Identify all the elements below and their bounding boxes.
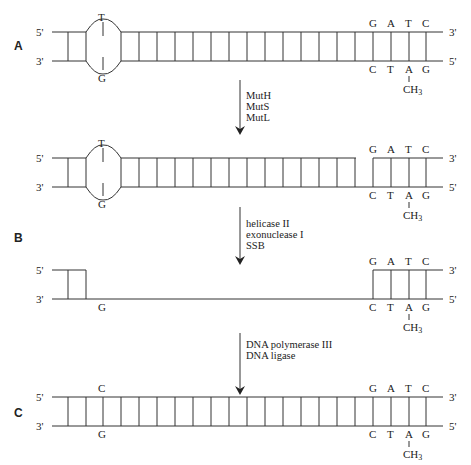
gatc-bottom-g: G (422, 63, 430, 75)
gatc-bottom-a: A (405, 63, 413, 75)
mismatch-top-base: T (98, 11, 105, 23)
enzyme-ssb: SSB (246, 240, 265, 251)
five-prime-left: 5' (36, 26, 44, 38)
gatc-bottom-a: A (405, 428, 413, 440)
repaired-bottom-base: G (98, 428, 106, 440)
enzyme-mutl: MutL (246, 112, 270, 123)
three-prime-left: 3' (36, 181, 44, 193)
enzyme-muth: MutH (246, 90, 272, 101)
gatc-top-c: C (422, 382, 429, 394)
dna-mismatch-repair-diagram: A 5' 3' (0, 0, 471, 465)
three-prime-right: 3' (449, 264, 457, 276)
gatc-bottom-c: C (369, 301, 376, 313)
gatc-top-a: A (387, 143, 395, 155)
three-prime-right: 3' (449, 152, 457, 164)
three-prime-left: 3' (36, 420, 44, 432)
mismatch-top-base: T (98, 137, 105, 149)
methyl-group: CH3 (403, 209, 422, 223)
panel-label-a: A (14, 39, 23, 53)
row-2-nicked-duplex: 5' 3' T G G A T C C (36, 137, 457, 223)
enzyme-exonuclease-i: exonuclease I (246, 229, 304, 240)
gatc-top-g: G (369, 382, 377, 394)
gatc-bottom-a: A (405, 189, 413, 201)
gatc-top-c: C (422, 143, 429, 155)
gatc-bottom-c: C (369, 428, 376, 440)
row-1-mismatch-duplex: A 5' 3' (14, 11, 457, 97)
mismatch-bottom-base: G (98, 72, 106, 84)
gatc-top-t: T (405, 255, 412, 267)
five-prime-right: 5' (449, 55, 457, 67)
panel-label-b: B (14, 231, 23, 245)
panel-label-c: C (14, 406, 23, 420)
three-prime-right: 3' (449, 26, 457, 38)
step-1-arrow: MutH MutS MutL (235, 80, 272, 135)
enzyme-muts: MutS (246, 101, 270, 112)
gatc-bottom-g: G (422, 428, 430, 440)
gatc-top-a: A (387, 17, 395, 29)
five-prime-left: 5' (36, 391, 44, 403)
gatc-top-t: T (405, 17, 412, 29)
gatc-top-g: G (369, 17, 377, 29)
gatc-top-t: T (405, 143, 412, 155)
gatc-bottom-a: A (405, 301, 413, 313)
row-4-repaired-duplex: C 5' 3' C G G A T C C T A G (14, 382, 457, 462)
gatc-top-a: A (387, 382, 395, 394)
enzyme-dna-polymerase-iii: DNA polymerase III (246, 339, 333, 350)
three-prime-left: 3' (36, 55, 44, 67)
methyl-group: CH3 (403, 83, 422, 97)
five-prime-right: 5' (449, 181, 457, 193)
gatc-bottom-c: C (369, 63, 376, 75)
gatc-bottom-g: G (422, 189, 430, 201)
gatc-bottom-t: T (387, 63, 394, 75)
five-prime-right: 5' (449, 420, 457, 432)
enzyme-dna-ligase: DNA ligase (246, 350, 296, 361)
gatc-top-t: T (405, 382, 412, 394)
methyl-group: CH3 (403, 321, 422, 335)
five-prime-left: 5' (36, 264, 44, 276)
five-prime-right: 5' (449, 293, 457, 305)
mismatch-bottom-base: G (98, 198, 106, 210)
gatc-bottom-g: G (422, 301, 430, 313)
three-prime-right: 3' (449, 391, 457, 403)
mismatch-bottom-base: G (98, 301, 106, 313)
step-3-arrow: DNA polymerase III DNA ligase (235, 333, 333, 395)
gatc-top-g: G (369, 255, 377, 267)
three-prime-left: 3' (36, 293, 44, 305)
gatc-bottom-t: T (387, 301, 394, 313)
gatc-bottom-c: C (369, 189, 376, 201)
gatc-top-c: C (422, 17, 429, 29)
gatc-top-a: A (387, 255, 395, 267)
gatc-bottom-t: T (387, 189, 394, 201)
step-2-arrow: helicase II exonuclease I SSB (235, 207, 304, 265)
enzyme-helicase-ii: helicase II (246, 218, 290, 229)
methyl-group: CH3 (403, 448, 422, 462)
five-prime-left: 5' (36, 152, 44, 164)
gatc-top-g: G (369, 143, 377, 155)
rungs (121, 32, 426, 61)
repaired-top-base: C (98, 382, 105, 394)
gatc-top-c: C (422, 255, 429, 267)
gatc-bottom-t: T (387, 428, 394, 440)
row-3-excised-gap: 5' 3' G G A T C C T A G CH3 3' 5' (36, 255, 457, 335)
